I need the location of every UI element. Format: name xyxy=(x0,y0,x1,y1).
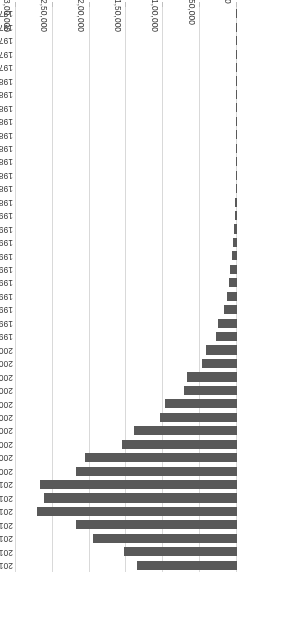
bar-row xyxy=(16,464,237,477)
bar-2002[interactable] xyxy=(187,372,237,381)
category-label-2007: 2007 xyxy=(0,438,13,451)
bar-2003[interactable] xyxy=(184,386,237,395)
category-label-2013: 2013 xyxy=(0,518,13,531)
category-label-1999: 1999 xyxy=(0,330,13,343)
bar-row xyxy=(16,532,237,545)
bar-2004[interactable] xyxy=(165,399,237,408)
bar-row xyxy=(16,20,237,33)
x-tick-label-0: 0 xyxy=(224,0,234,4)
category-label-1977: 1977 xyxy=(0,34,13,47)
category-label-1984: 1984 xyxy=(0,128,13,141)
bar-row xyxy=(16,491,237,504)
bar-2010[interactable] xyxy=(40,480,237,489)
bar-row xyxy=(16,101,237,114)
bar-row xyxy=(16,357,237,370)
category-label-1989: 1989 xyxy=(0,195,13,208)
bar-1988[interactable] xyxy=(236,184,237,193)
bar-row xyxy=(16,115,237,128)
category-label-1992: 1992 xyxy=(0,236,13,249)
bar-row xyxy=(16,478,237,491)
bar-2013[interactable] xyxy=(76,520,237,529)
bar-row xyxy=(16,316,237,329)
bar-1981[interactable] xyxy=(236,90,237,99)
bar-row xyxy=(16,330,237,343)
category-label-1978: 1978 xyxy=(0,47,13,60)
category-label-1994: 1994 xyxy=(0,263,13,276)
bar-1996[interactable] xyxy=(227,292,237,301)
bar-1980[interactable] xyxy=(236,76,237,85)
bar-2011[interactable] xyxy=(44,493,237,502)
bar-1982[interactable] xyxy=(236,103,237,112)
x-tick-label-50000: 50,000 xyxy=(187,0,197,25)
bar-1995[interactable] xyxy=(229,278,237,287)
x-tick-label-200000: 2,00,000 xyxy=(76,0,86,32)
bar-2006[interactable] xyxy=(134,426,237,435)
bar-1994[interactable] xyxy=(230,265,237,274)
category-label-1988: 1988 xyxy=(0,182,13,195)
bar-row xyxy=(16,303,237,316)
bar-2007[interactable] xyxy=(122,440,237,449)
bar-2009[interactable] xyxy=(76,467,237,476)
bar-1998[interactable] xyxy=(218,319,237,328)
bar-1989[interactable] xyxy=(235,198,237,207)
category-label-1991: 1991 xyxy=(0,222,13,235)
bar-1997[interactable] xyxy=(224,305,237,314)
bar-row xyxy=(16,451,237,464)
category-label-1993: 1993 xyxy=(0,249,13,262)
bar-1992[interactable] xyxy=(233,238,237,247)
category-label-1979: 1979 xyxy=(0,61,13,74)
category-label-2000: 2000 xyxy=(0,343,13,356)
category-label-1985: 1985 xyxy=(0,142,13,155)
bar-row xyxy=(16,155,237,168)
bar-row xyxy=(16,209,237,222)
x-tick-label-250000: 2,50,000 xyxy=(39,0,49,32)
bar-1986[interactable] xyxy=(236,157,237,166)
bar-1987[interactable] xyxy=(236,171,237,180)
bar-1990[interactable] xyxy=(235,211,237,220)
category-label-1980: 1980 xyxy=(0,74,13,87)
category-label-1997: 1997 xyxy=(0,303,13,316)
bar-1999[interactable] xyxy=(216,332,237,341)
bar-2008[interactable] xyxy=(85,453,237,462)
bar-1976[interactable] xyxy=(236,23,237,32)
bar-1979[interactable] xyxy=(236,63,237,72)
bar-1978[interactable] xyxy=(236,50,237,59)
bar-row xyxy=(16,411,237,424)
bar-1991[interactable] xyxy=(234,224,237,233)
category-label-1998: 1998 xyxy=(0,316,13,329)
bar-row xyxy=(16,195,237,208)
bar-1993[interactable] xyxy=(232,251,237,260)
bar-row xyxy=(16,142,237,155)
bar-row xyxy=(16,249,237,262)
bar-row xyxy=(16,47,237,60)
bar-1983[interactable] xyxy=(236,117,237,126)
bar-2014[interactable] xyxy=(93,534,237,543)
bar-row xyxy=(16,61,237,74)
bar-row xyxy=(16,518,237,531)
bar-row xyxy=(16,168,237,181)
category-label-2003: 2003 xyxy=(0,384,13,397)
bar-1984[interactable] xyxy=(236,130,237,139)
category-label-1990: 1990 xyxy=(0,209,13,222)
bar-row xyxy=(16,370,237,383)
category-label-2001: 2001 xyxy=(0,357,13,370)
category-label-2008: 2008 xyxy=(0,451,13,464)
plot-area: 2016201520142013201220112010200920082007… xyxy=(16,7,237,572)
category-label-2002: 2002 xyxy=(0,370,13,383)
x-tick-label-300000: 3,00,000 xyxy=(3,0,13,32)
bar-2001[interactable] xyxy=(202,359,237,368)
bar-2015[interactable] xyxy=(124,547,237,556)
bar-1977[interactable] xyxy=(236,36,237,45)
bar-2012[interactable] xyxy=(37,507,237,516)
bar-1985[interactable] xyxy=(236,144,237,153)
bar-1975[interactable] xyxy=(236,9,237,18)
bar-row xyxy=(16,74,237,87)
bar-2005[interactable] xyxy=(160,413,237,422)
category-label-2011: 2011 xyxy=(0,491,13,504)
category-label-2010: 2010 xyxy=(0,478,13,491)
bar-2000[interactable] xyxy=(206,345,237,354)
bar-row xyxy=(16,222,237,235)
category-label-2012: 2012 xyxy=(0,505,13,518)
category-label-2009: 2009 xyxy=(0,464,13,477)
bar-2016[interactable] xyxy=(137,561,237,570)
